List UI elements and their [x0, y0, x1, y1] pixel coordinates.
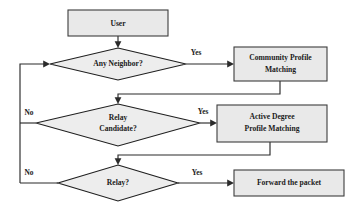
node-any-neighbor[interactable]: Any Neighbor? — [50, 48, 186, 80]
connector-active-degree-to-relay — [115, 142, 270, 165]
edge-label-no-relay: No — [24, 168, 33, 177]
connector-community-profile-to-relay-candidate — [115, 81, 280, 104]
edge-label-yes-relay-candidate: Yes — [198, 107, 209, 116]
user-label: User — [110, 19, 126, 28]
active-degree-profile-matching-label-line2: Profile Matching — [245, 124, 300, 133]
node-forward-the-packet[interactable]: Forward the packet — [234, 170, 344, 196]
community-profile-matching-label-line1: Community Profile — [249, 53, 312, 62]
flowchart-svg: Community Profile Matching --> Active De… — [0, 0, 360, 212]
edge-label-no-relay-candidate: No — [24, 108, 33, 117]
active-degree-profile-matching-label-line1: Active Degree — [249, 112, 295, 121]
edge-label-yes-any-neighbor: Yes — [191, 48, 202, 57]
connector-any-neighbor-yes-to-community-profile — [186, 61, 234, 68]
node-relay[interactable]: Relay? — [58, 165, 178, 201]
relay-candidate-label-line2: Candidate? — [99, 124, 137, 133]
connector-relay-candidate-yes-to-active-degree — [200, 120, 217, 127]
connector-user-to-any-neighbor — [115, 36, 122, 48]
node-active-degree-profile-matching[interactable]: Active Degree Profile Matching — [217, 105, 327, 142]
relay-candidate-label-line1: Relay — [109, 113, 128, 122]
any-neighbor-label: Any Neighbor? — [93, 59, 143, 68]
community-profile-matching-label-line2: Matching — [265, 65, 296, 74]
forward-the-packet-label: Forward the packet — [257, 178, 322, 187]
connector-relay-yes-to-forward-packet — [178, 180, 234, 187]
node-user[interactable]: User — [68, 10, 168, 36]
node-relay-candidate[interactable]: Relay Candidate? — [36, 104, 200, 146]
relay-label: Relay? — [107, 178, 130, 187]
flowchart-canvas: Community Profile Matching --> Active De… — [0, 0, 360, 212]
edge-label-yes-relay: Yes — [192, 168, 203, 177]
node-community-profile-matching[interactable]: Community Profile Matching — [234, 47, 327, 81]
